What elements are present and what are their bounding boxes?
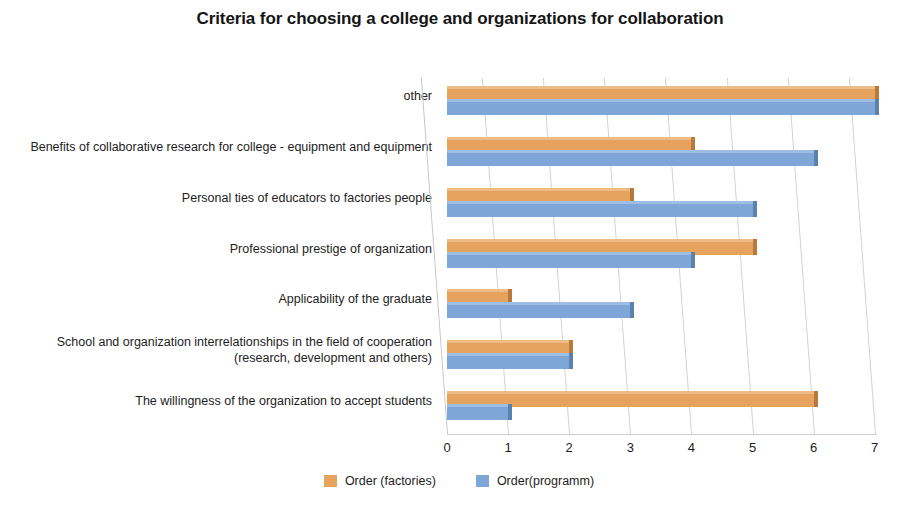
bar-order-programm[interactable] xyxy=(447,356,569,369)
bar-group xyxy=(447,180,875,231)
legend-item[interactable]: Order (factories) xyxy=(324,474,436,488)
legend-swatch-icon xyxy=(476,475,489,487)
bar-body xyxy=(447,255,691,268)
legend-item[interactable]: Order(programm) xyxy=(476,474,594,488)
legend-label: Order(programm) xyxy=(497,474,594,488)
bar-order-programm[interactable] xyxy=(447,407,508,420)
x-tick-label: 2 xyxy=(554,440,584,455)
bar-body xyxy=(447,153,814,166)
plot-area xyxy=(447,78,875,434)
chart-title: Criteria for choosing a college and orga… xyxy=(120,6,800,31)
bar-end-cap xyxy=(691,252,695,268)
x-tick-label: 5 xyxy=(738,440,768,455)
bar-order-programm[interactable] xyxy=(447,153,814,166)
bar-order-programm[interactable] xyxy=(447,305,630,318)
x-tick-label: 0 xyxy=(432,440,462,455)
category-label: Personal ties of educators to factories … xyxy=(8,190,432,206)
legend-label: Order (factories) xyxy=(345,474,436,488)
bar-group xyxy=(447,129,875,180)
x-tick-label: 6 xyxy=(799,440,829,455)
bar-end-cap xyxy=(753,201,757,217)
bar-group xyxy=(447,332,875,383)
category-label: Benefits of collaborative research for c… xyxy=(8,139,432,155)
bar-end-cap xyxy=(630,302,634,318)
x-axis-line xyxy=(447,434,877,435)
bar-order-programm[interactable] xyxy=(447,255,691,268)
category-axis-labels: The willingness of the organization to a… xyxy=(8,78,440,434)
bar-end-cap xyxy=(814,150,818,166)
bar-end-cap xyxy=(875,99,879,115)
x-tick-label: 1 xyxy=(493,440,523,455)
category-label: Professional prestige of organization xyxy=(8,241,432,257)
bar-body xyxy=(447,102,875,115)
x-tick-label: 3 xyxy=(615,440,645,455)
bar-group xyxy=(447,231,875,282)
bar-order-programm[interactable] xyxy=(447,204,753,217)
bar-body xyxy=(447,204,753,217)
category-label: other xyxy=(8,88,432,104)
bar-end-cap xyxy=(508,404,512,420)
bar-end-cap xyxy=(814,391,818,407)
x-tick-label: 4 xyxy=(676,440,706,455)
x-tick-label: 7 xyxy=(860,440,890,455)
category-label: School and organization interrelationshi… xyxy=(8,334,432,366)
legend-swatch-icon xyxy=(324,475,337,487)
bar-body xyxy=(447,305,630,318)
bar-order-programm[interactable] xyxy=(447,102,875,115)
bar-end-cap xyxy=(569,353,573,369)
bar-group xyxy=(447,78,875,129)
bar-end-cap xyxy=(753,239,757,255)
bar-group xyxy=(447,383,875,434)
x-axis-tick-labels: 01234567 xyxy=(0,440,918,460)
category-label: Applicability of the graduate xyxy=(8,291,432,307)
bar-body xyxy=(447,407,508,420)
bar-group xyxy=(447,281,875,332)
chart-legend: Order (factories)Order(programm) xyxy=(0,474,918,488)
bar-body xyxy=(447,356,569,369)
category-label: The willingness of the organization to a… xyxy=(8,393,432,409)
